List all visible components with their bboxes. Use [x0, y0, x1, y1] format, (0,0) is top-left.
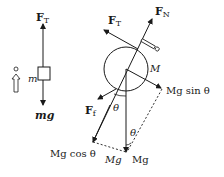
- dashed-sin-to-mg: [127, 89, 162, 152]
- angle-arc-1: [114, 94, 126, 96]
- mg-sin-label: Mg sin θ: [166, 85, 210, 96]
- mass-label-m: m: [28, 73, 37, 84]
- angle-arc-2: [126, 143, 131, 145]
- svg-text:FN: FN: [155, 5, 170, 19]
- mg-label-right: Mg: [132, 154, 149, 165]
- free-body-diagram: FT m mg FT FN Ff M Mg sin θ Mg: [0, 0, 224, 177]
- weight-label-mg: mg: [35, 109, 55, 122]
- mass-box: [38, 67, 50, 80]
- right-tension-arrow: [104, 30, 138, 49]
- svg-text:FT: FT: [36, 11, 50, 25]
- right-body: FT FN Ff M Mg sin θ Mg cos θ Mg Mg θ θ: [50, 5, 210, 165]
- friction-arrow: [98, 89, 116, 99]
- dashed-cos-to-mg: [93, 142, 126, 152]
- mg-label-left: Mg: [104, 154, 122, 165]
- svg-text:Ff: Ff: [85, 104, 97, 118]
- theta-label-2: θ: [130, 127, 136, 138]
- diagonal-arrow-with-dot-icon: [141, 38, 160, 51]
- left-body: FT m mg: [12, 11, 55, 122]
- up-arrow-with-dot-icon: [12, 67, 20, 92]
- theta-label-1: θ: [113, 102, 119, 113]
- mass-label-M: M: [149, 63, 161, 74]
- mg-cos-label: Mg cos θ: [50, 148, 96, 159]
- svg-text:FT: FT: [108, 14, 122, 28]
